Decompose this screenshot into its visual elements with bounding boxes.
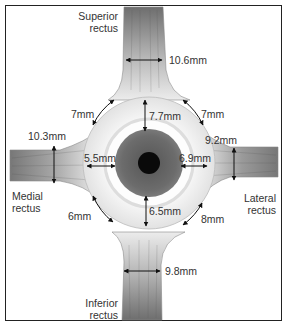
- medial-width-label: 10.3mm: [28, 130, 66, 142]
- lateral-width-label: 9.2mm: [205, 134, 237, 146]
- lateral-label-line2: rectus: [230, 204, 276, 216]
- medial-label-line2: rectus: [12, 202, 43, 214]
- medial-label-line1: Medial: [12, 190, 43, 202]
- superior-rectus-label: Superior rectus: [78, 10, 118, 34]
- inferior-insertion-label: 6.5mm: [149, 205, 181, 217]
- inferior-label-line1: Inferior: [74, 297, 118, 309]
- sup-lat-distance-label: 7mm: [201, 108, 224, 120]
- inf-med-distance-label: 6mm: [68, 210, 91, 222]
- lateral-insertion-label: 6.9mm: [179, 152, 211, 164]
- superior-label-line1: Superior: [78, 10, 118, 22]
- medial-rectus-label: Medial rectus: [12, 190, 43, 214]
- lateral-label-line1: Lateral: [230, 192, 276, 204]
- inferior-label-line2: rectus: [74, 309, 118, 321]
- inferior-rectus-label: Inferior rectus: [74, 297, 118, 321]
- superior-insertion-label: 7.7mm: [149, 110, 181, 122]
- eye-muscle-diagram: [0, 0, 290, 333]
- inf-lat-distance-label: 8mm: [201, 213, 224, 225]
- pupil: [138, 152, 160, 174]
- superior-label-line2: rectus: [78, 22, 118, 34]
- sup-med-distance-label: 7mm: [71, 108, 94, 120]
- lateral-rectus-label: Lateral rectus: [230, 192, 276, 216]
- medial-insertion-label: 5.5mm: [84, 152, 116, 164]
- inferior-width-label: 9.8mm: [165, 265, 197, 277]
- superior-width-label: 10.6mm: [169, 54, 207, 66]
